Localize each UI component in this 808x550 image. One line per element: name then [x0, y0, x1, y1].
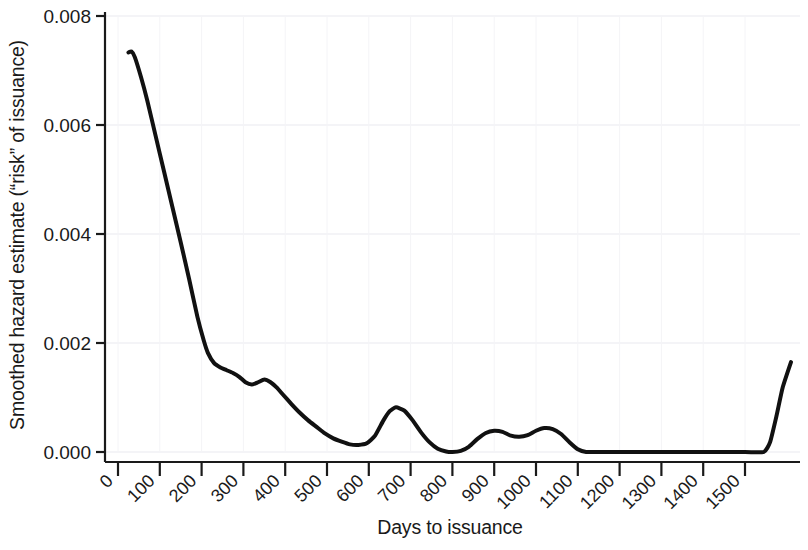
chart-figure: Smoothed hazard estimate (“risk” of issu…	[0, 0, 808, 550]
x-axis-ticks: 0100200300400500600700800900100011001200…	[96, 462, 745, 513]
x-tick-label: 100	[123, 471, 158, 506]
y-tick-label: 0.002	[43, 333, 91, 354]
x-tick-label: 800	[416, 471, 451, 506]
x-tick-label: 700	[374, 471, 409, 506]
x-tick-label: 500	[290, 471, 325, 506]
x-tick-label: 200	[165, 471, 200, 506]
y-tick-label: 0.006	[43, 115, 91, 136]
x-tick-label: 600	[332, 471, 367, 506]
x-axis-label: Days to issuance	[105, 516, 795, 539]
x-tick-label: 1400	[660, 471, 702, 513]
x-tick-label: 300	[207, 471, 242, 506]
x-tick-label: 1300	[618, 471, 660, 513]
x-tick-label: 400	[249, 471, 284, 506]
x-tick-label: 0	[96, 471, 117, 492]
x-tick-label: 900	[458, 471, 493, 506]
gridlines	[105, 16, 800, 452]
y-tick-label: 0.004	[43, 224, 91, 245]
y-tick-label: 0.000	[43, 442, 91, 463]
hazard-curve	[128, 51, 791, 452]
x-tick-label: 1000	[492, 471, 534, 513]
x-tick-label: 1100	[535, 471, 577, 513]
x-tick-label: 1500	[701, 471, 743, 513]
plot-area: 0.0000.0020.0040.0060.008 01002003004005…	[0, 0, 808, 550]
x-tick-label: 1200	[576, 471, 618, 513]
y-axis-ticks: 0.0000.0020.0040.0060.008	[43, 6, 105, 463]
y-tick-label: 0.008	[43, 6, 91, 27]
